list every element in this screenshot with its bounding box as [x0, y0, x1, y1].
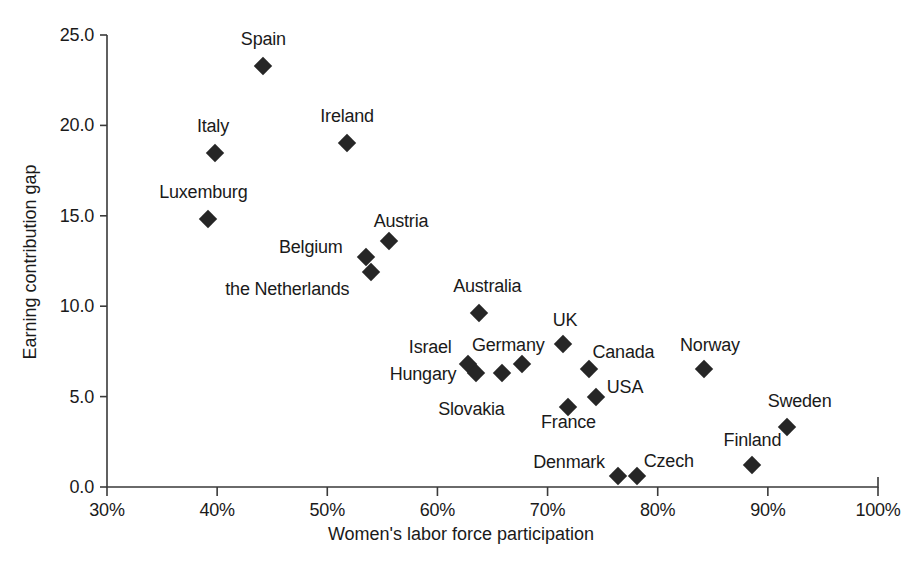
y-tick-label: 15.0	[60, 205, 94, 226]
data-point-label: Belgium	[279, 237, 343, 258]
data-point-label: UK	[553, 310, 578, 331]
data-point-label: Austria	[374, 211, 429, 232]
y-tick-label: 5.0	[70, 386, 94, 407]
x-tick-label: 40%	[199, 500, 234, 521]
x-tick-label: 90%	[750, 500, 785, 521]
y-axis-title: Earning contribution gap	[20, 164, 41, 359]
data-point-label: Slovakia	[438, 399, 504, 420]
data-point-label: the Netherlands	[225, 278, 349, 299]
x-tick-label: 50%	[310, 500, 345, 521]
x-tick-label: 60%	[420, 500, 455, 521]
y-tick-label: 25.0	[60, 25, 94, 46]
data-point-label: Finland	[724, 430, 782, 451]
data-point-label: Czech	[644, 451, 694, 472]
x-tick-label: 80%	[640, 500, 675, 521]
data-point-label: Australia	[453, 276, 521, 297]
data-point-label: Spain	[241, 28, 286, 49]
scatter-chart: 0.05.010.015.020.025.0 30%40%50%60%70%80…	[0, 0, 922, 574]
data-point-label: Hungary	[390, 364, 457, 385]
data-point-label: France	[541, 412, 596, 433]
data-point-label: USA	[607, 376, 643, 397]
data-point-label: Canada	[592, 342, 654, 363]
x-tick-label: 30%	[89, 500, 124, 521]
data-point-label: Denmark	[533, 452, 605, 473]
data-point-label: Luxemburg	[159, 182, 247, 203]
data-point-label: Sweden	[768, 391, 832, 412]
data-point-label: Israel	[409, 337, 452, 358]
x-tick-label: 100%	[855, 500, 900, 521]
y-tick-label: 20.0	[60, 115, 94, 136]
x-tick-label: 70%	[530, 500, 565, 521]
y-tick-label: 10.0	[60, 296, 94, 317]
data-point-label: Norway	[680, 335, 740, 356]
data-point-label: Germany	[472, 335, 545, 356]
x-axis-title: Women's labor force participation	[328, 524, 594, 545]
data-point-label: Italy	[197, 115, 229, 136]
y-tick-label: 0.0	[70, 477, 94, 498]
data-point-label: Ireland	[320, 106, 374, 127]
